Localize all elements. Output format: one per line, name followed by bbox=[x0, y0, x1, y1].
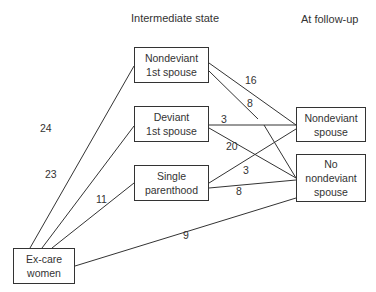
edge-label-11: 11 bbox=[96, 193, 107, 205]
header-at-follow-up: At follow-up bbox=[301, 13, 358, 25]
edge-label-8-bottom: 8 bbox=[236, 185, 242, 197]
flow-diagram: Intermediate state At follow-up Nondevia… bbox=[0, 0, 376, 292]
edge-label-24: 24 bbox=[40, 122, 52, 134]
edge-single-nonondev bbox=[209, 180, 296, 188]
edge-nondevfirst-nonondev-b bbox=[264, 125, 296, 178]
node-no-nondeviant-spouse: No nondeviant spouse bbox=[296, 154, 366, 202]
edge-label-3-bottom: 3 bbox=[243, 164, 249, 176]
edge-excare-single-parent bbox=[52, 183, 134, 248]
node-label: Nondeviant 1st spouse bbox=[145, 51, 198, 79]
node-label: No nondeviant spouse bbox=[305, 157, 356, 199]
node-label: Single parenthood bbox=[145, 169, 198, 197]
node-label: Nondeviant spouse bbox=[304, 111, 357, 139]
edge-label-16: 16 bbox=[245, 74, 257, 86]
edge-label-23: 23 bbox=[45, 168, 57, 180]
edge-label-20: 20 bbox=[226, 140, 238, 152]
edge-excare-nondeviant-first bbox=[30, 66, 134, 248]
edge-label-9: 9 bbox=[183, 229, 189, 241]
node-label: Ex-care women bbox=[26, 252, 62, 280]
node-deviant-first-spouse: Deviant 1st spouse bbox=[134, 106, 209, 142]
node-nondeviant-first-spouse: Nondeviant 1st spouse bbox=[134, 47, 209, 83]
node-label: Deviant 1st spouse bbox=[146, 110, 197, 138]
edge-label-3-top: 3 bbox=[221, 113, 227, 125]
header-intermediate-state: Intermediate state bbox=[131, 12, 219, 24]
edge-excare-deviant-first bbox=[42, 126, 134, 248]
node-ex-care-women: Ex-care women bbox=[13, 248, 75, 284]
node-single-parenthood: Single parenthood bbox=[134, 165, 209, 201]
node-nondeviant-spouse: Nondeviant spouse bbox=[296, 107, 366, 142]
edge-label-8-top: 8 bbox=[247, 97, 253, 109]
edge-devfirst-nonondev bbox=[209, 128, 296, 178]
